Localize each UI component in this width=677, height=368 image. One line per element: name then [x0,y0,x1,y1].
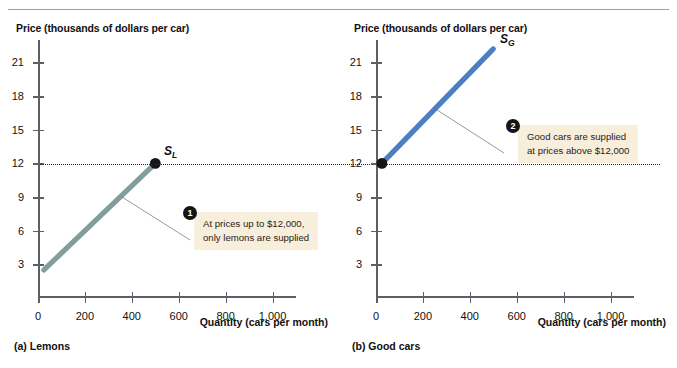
panel-caption-b: (b) Good cars [352,340,420,352]
callout-leader-line-b [434,108,504,153]
callout-number-1: 1 [183,206,197,220]
callout-2-line-1: Good cars are supplied [527,130,629,144]
x-tick-label-0-a: 0 [35,310,41,322]
lemons-supply-curve [44,163,155,270]
callout-box-2: Good cars are supplied at prices above $… [518,125,638,163]
callout-number-2: 2 [506,119,520,133]
y-tick-label-3-a: 3 [18,258,24,270]
panel-caption-a: (a) Lemons [14,340,70,352]
y-tick-label-9-b: 9 [356,191,362,203]
y-tick-label-21-b: 21 [350,56,362,68]
x-tick-label-200-a: 200 [76,310,94,322]
x-tick-label-400-a: 400 [123,310,141,322]
chart-panel-lemons: Price (thousands of dollars per car) 21 … [0,0,338,368]
y-tick-label-9-a: 9 [18,191,24,203]
callout-1-line-1: At prices up to $12,000, [203,217,309,231]
x-tick-label-0-b: 0 [373,310,379,322]
figure-root: Price (thousands of dollars per car) 21 … [0,0,677,368]
y-tick-label-21-a: 21 [12,56,24,68]
plot-area-good-cars: 21 18 15 12 9 6 3 0 200 [376,40,638,298]
x-tick-label-200-b: 200 [414,310,432,322]
curve-label-sg: SG [500,32,515,48]
y-tick-label-15-b: 15 [350,124,362,136]
x-tick-label-600-b: 600 [508,310,526,322]
chart-panel-good-cars: Price (thousands of dollars per car) 21 … [338,0,676,368]
y-tick-label-12-b: 12 [350,157,362,169]
callout-leader-line-a [122,197,190,240]
y-tick-label-18-b: 18 [350,90,362,102]
y-tick-label-3-b: 3 [356,258,362,270]
lemons-supply-curve-layer [38,40,300,298]
y-tick-label-6-b: 6 [356,225,362,237]
y-tick-label-6-a: 6 [18,225,24,237]
y-tick-label-12-a: 12 [12,157,24,169]
x-tick-label-600-a: 600 [170,310,188,322]
x-axis-title-a: Quantity (cars per month) [200,316,328,328]
callout-box-1: At prices up to $12,000, only lemons are… [194,212,318,250]
y-tick-label-15-a: 15 [12,124,24,136]
curve-label-sl: SL [164,144,177,160]
callout-1-line-2: only lemons are supplied [203,231,309,245]
callout-2-line-2: at prices above $12,000 [527,144,629,158]
x-tick-label-400-b: 400 [461,310,479,322]
good-cars-curve-endpoint-marker [377,158,388,169]
y-axis-title-a: Price (thousands of dollars per car) [16,22,189,34]
good-cars-supply-curve [382,49,493,163]
x-axis-title-b: Quantity (cars per month) [538,316,666,328]
y-tick-label-18-a: 18 [12,90,24,102]
plot-area-lemons: 21 18 15 12 9 6 3 0 [38,40,300,298]
good-cars-supply-curve-layer [376,40,638,298]
